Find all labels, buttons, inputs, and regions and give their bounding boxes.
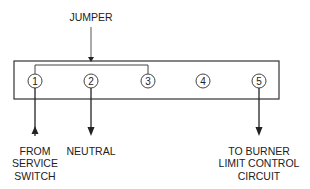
terminal-5: 5 xyxy=(252,74,266,88)
diagram-canvas: JUMPER 1 2 3 4 5 FROM SERVICE SWITCH NEU… xyxy=(0,0,310,189)
svg-text:SWITCH: SWITCH xyxy=(14,170,55,182)
svg-text:SERVICE: SERVICE xyxy=(12,157,58,169)
svg-text:TO BURNER: TO BURNER xyxy=(228,145,290,157)
terminal-1: 1 xyxy=(28,74,42,88)
jumper-wire xyxy=(35,65,148,74)
arrow-down-icon xyxy=(256,127,263,136)
label-to-burner-limit-control: TO BURNER LIMIT CONTROL CIRCUIT xyxy=(219,145,300,182)
svg-text:5: 5 xyxy=(256,76,262,87)
terminal-2: 2 xyxy=(84,74,98,88)
terminal-3: 3 xyxy=(141,74,155,88)
svg-text:LIMIT CONTROL: LIMIT CONTROL xyxy=(219,157,300,169)
svg-text:3: 3 xyxy=(145,76,151,87)
svg-text:CIRCUIT: CIRCUIT xyxy=(238,170,281,182)
svg-text:NEUTRAL: NEUTRAL xyxy=(66,145,115,157)
terminal-block-diagram: JUMPER 1 2 3 4 5 FROM SERVICE SWITCH NEU… xyxy=(0,0,310,189)
arrow-up-icon xyxy=(32,126,39,134)
terminal-4: 4 xyxy=(196,74,210,88)
svg-text:FROM: FROM xyxy=(20,145,51,157)
svg-text:4: 4 xyxy=(200,76,206,87)
jumper-label: JUMPER xyxy=(69,11,113,23)
arrow-down-icon xyxy=(88,127,95,136)
label-neutral: NEUTRAL xyxy=(66,145,115,157)
svg-text:1: 1 xyxy=(32,76,38,87)
svg-text:2: 2 xyxy=(88,76,94,87)
label-from-service-switch: FROM SERVICE SWITCH xyxy=(12,145,58,182)
